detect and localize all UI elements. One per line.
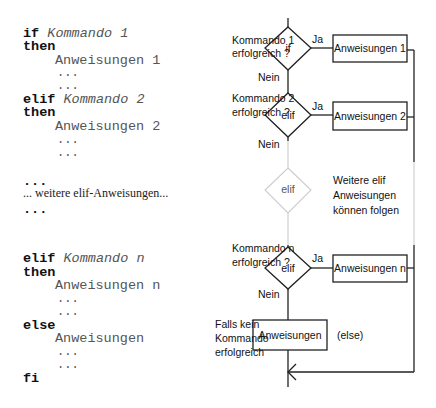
more-elif-note-3: können folgen — [333, 204, 399, 216]
statements-n-label: Anweisungen n — [334, 262, 406, 274]
else-cond-3: erfolgreich — [215, 346, 264, 358]
cond-n-line1: Kommando n — [232, 242, 295, 254]
else-cond-1: Falls kein — [215, 318, 260, 330]
flowchart: Kommando 1 erfolgreich ? if Ja Anweisung… — [0, 0, 436, 408]
more-elif-label: elif — [281, 183, 295, 195]
elif-n-label: elif — [281, 262, 295, 274]
no-label: Nein — [258, 71, 280, 83]
yes-label: Ja — [312, 33, 323, 45]
cond-2-line1: Kommando 2 — [232, 92, 295, 104]
if-label: if — [285, 42, 290, 54]
statements-2-label: Anweisungen 2 — [334, 110, 406, 122]
no-label: Nein — [258, 138, 280, 150]
cond-1-line2: erfolgreich ? — [232, 47, 290, 59]
more-elif-note-2: Anweisungen — [333, 189, 396, 201]
no-label: Nein — [258, 288, 280, 300]
else-statements-label: Anweisungen — [258, 329, 321, 341]
yes-label: Ja — [312, 100, 323, 112]
yes-label: Ja — [312, 252, 323, 264]
more-elif-note-1: Weitere elif — [333, 174, 385, 186]
elif-2-label: elif — [281, 109, 295, 121]
else-tag: (else) — [337, 329, 363, 341]
statements-1-label: Anweisungen 1 — [334, 42, 406, 54]
